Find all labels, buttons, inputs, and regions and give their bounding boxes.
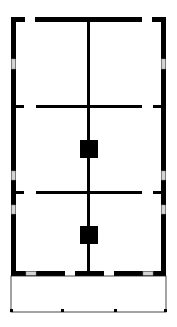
floor-plan [0, 0, 177, 327]
partition-1-center [36, 105, 142, 108]
porch-post-2 [61, 309, 64, 312]
window-left-3 [12, 205, 16, 214]
partition-2-right-stub [153, 191, 166, 194]
window-left-2 [12, 171, 16, 180]
partition-1-right-stub [153, 105, 166, 108]
porch-post-3 [114, 309, 117, 312]
pillar-2 [80, 226, 98, 244]
partition-2-left-stub [11, 191, 24, 194]
pillar-1 [80, 140, 98, 158]
window-right-2 [162, 171, 166, 180]
left-wall [11, 17, 16, 276]
right-wall [161, 17, 166, 276]
partition-1-left-stub [11, 105, 24, 108]
porch-post-4 [164, 309, 167, 312]
partition-2-center [36, 191, 142, 194]
window-bottom-right [143, 272, 153, 276]
window-bottom-left [26, 272, 36, 276]
bottom-wall-left [11, 271, 65, 276]
porch-post-1 [10, 309, 13, 312]
window-right-1 [162, 59, 166, 69]
porch [10, 276, 167, 312]
window-left-1 [12, 59, 16, 69]
porch-outline [11, 276, 166, 312]
window-right-3 [162, 205, 166, 214]
bottom-wall-right [114, 271, 166, 276]
